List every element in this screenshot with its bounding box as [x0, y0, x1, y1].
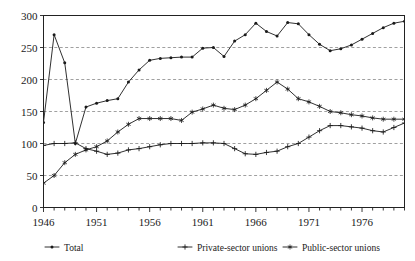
datapoint-0-1966 — [254, 22, 257, 25]
datapoint-1-1955 — [136, 146, 141, 151]
datapoint-2-1972 — [317, 104, 321, 109]
datapoint-0-1950 — [84, 106, 87, 109]
datapoint-0-1948 — [63, 61, 66, 64]
datapoint-0-1964 — [233, 40, 236, 43]
xtick-label-1976: 1976 — [351, 216, 374, 228]
series-group — [41, 20, 407, 186]
datapoint-0-1956 — [148, 59, 151, 62]
datapoint-0-1958 — [169, 56, 172, 59]
datapoint-0-1952 — [106, 99, 109, 102]
datapoint-1-1963 — [221, 141, 226, 146]
datapoint-1-1977 — [370, 128, 375, 133]
datapoint-1-1976 — [359, 126, 364, 131]
datapoint-1-1949 — [73, 140, 78, 145]
line-chart: 0501001502002503001946195119561961196619… — [0, 0, 415, 261]
datapoint-1-1953 — [115, 151, 120, 156]
datapoint-1-1974 — [338, 123, 343, 128]
datapoint-0-1967 — [265, 30, 268, 33]
legend: TotalPrivate-sector unionsPublic-sector … — [45, 243, 380, 253]
legend-marker-dot-icon — [51, 246, 54, 249]
datapoint-0-1977 — [371, 32, 374, 35]
datapoint-1-1968 — [274, 149, 279, 154]
series-line-0 — [44, 21, 405, 143]
ytick-label-0: 0 — [32, 202, 38, 214]
datapoint-1-1959 — [179, 141, 184, 146]
ytick-label-100: 100 — [21, 138, 38, 150]
datapoint-1-1966 — [253, 152, 258, 157]
legend-label-0: Total — [64, 243, 84, 253]
series-private-sector-unions — [41, 120, 407, 157]
datapoint-0-1951 — [95, 102, 98, 105]
datapoint-0-1962 — [212, 46, 215, 49]
xtick-label-1946: 1946 — [33, 216, 56, 228]
datapoint-0-1975 — [350, 43, 353, 46]
datapoint-0-1973 — [329, 49, 332, 52]
ytick-label-250: 250 — [21, 42, 38, 54]
axes-group: 0501001502002503001946195119561961196619… — [21, 10, 405, 228]
legend-item-total[interactable]: Total — [45, 243, 84, 253]
datapoint-0-1970 — [297, 22, 300, 25]
datapoint-0-1953 — [116, 97, 119, 100]
datapoint-0-1963 — [223, 55, 226, 58]
xtick-label-1961: 1961 — [192, 216, 214, 228]
xtick-label-1966: 1966 — [245, 216, 268, 228]
datapoint-0-1979 — [392, 22, 395, 25]
datapoint-1-1948 — [62, 141, 67, 146]
ytick-label-50: 50 — [27, 170, 39, 182]
datapoint-2-1954 — [126, 122, 130, 127]
datapoint-1-1978 — [381, 129, 386, 134]
datapoint-1-1969 — [285, 144, 290, 149]
datapoint-1-1957 — [158, 142, 163, 147]
xtick-label-1971: 1971 — [298, 216, 320, 228]
datapoint-1-1979 — [391, 125, 396, 130]
datapoint-0-1961 — [201, 47, 204, 50]
legend-label-1: Private-sector unions — [197, 243, 278, 253]
datapoint-0-1954 — [127, 81, 130, 84]
datapoint-0-1957 — [159, 57, 162, 60]
datapoint-0-1960 — [191, 56, 194, 59]
datapoint-1-1967 — [264, 150, 269, 155]
datapoint-1-1951 — [94, 149, 99, 154]
legend-item-private-sector-unions[interactable]: Private-sector unions — [178, 243, 278, 253]
xtick-label-1951: 1951 — [86, 216, 108, 228]
ytick-label-200: 200 — [21, 74, 38, 86]
datapoint-1-1960 — [190, 141, 195, 146]
chart-figure: 0501001502002503001946195119561961196619… — [0, 0, 415, 261]
datapoint-1-1971 — [306, 135, 311, 140]
legend-item-public-sector-unions[interactable]: Public-sector unions — [283, 243, 380, 253]
datapoint-0-1965 — [244, 33, 247, 36]
datapoint-1-1965 — [243, 151, 248, 156]
datapoint-1-1961 — [200, 140, 205, 145]
datapoint-1-1962 — [211, 140, 216, 145]
datapoint-1-1973 — [328, 123, 333, 128]
datapoint-1-1958 — [168, 141, 173, 146]
datapoint-0-1971 — [307, 33, 310, 36]
legend-label-2: Public-sector unions — [302, 243, 380, 253]
datapoint-2-1965 — [243, 103, 247, 108]
datapoint-1-1975 — [349, 124, 354, 129]
series-line-1 — [44, 123, 405, 154]
xtick-label-1956: 1956 — [139, 216, 162, 228]
datapoint-0-1959 — [180, 56, 183, 59]
series-line-2 — [44, 82, 405, 183]
datapoint-1-1964 — [232, 146, 237, 151]
datapoint-1-1972 — [317, 128, 322, 133]
datapoint-0-1972 — [318, 43, 321, 46]
datapoint-1-1956 — [147, 144, 152, 149]
datapoint-1-1954 — [126, 147, 131, 152]
datapoint-1-1947 — [52, 141, 57, 146]
gridlines-group — [44, 48, 405, 176]
datapoint-0-1969 — [286, 21, 289, 24]
datapoint-1-1970 — [296, 141, 301, 146]
datapoint-0-1974 — [339, 47, 342, 50]
ytick-label-150: 150 — [21, 106, 38, 118]
datapoint-0-1968 — [276, 34, 279, 37]
datapoint-0-1976 — [361, 38, 364, 41]
datapoint-0-1978 — [382, 26, 385, 29]
legend-marker-plus-icon — [182, 244, 187, 249]
series-public-sector-unions — [41, 80, 406, 186]
datapoint-0-1955 — [138, 68, 141, 71]
datapoint-0-1947 — [53, 33, 56, 36]
ytick-label-300: 300 — [21, 10, 38, 22]
datapoint-1-1952 — [105, 152, 110, 157]
